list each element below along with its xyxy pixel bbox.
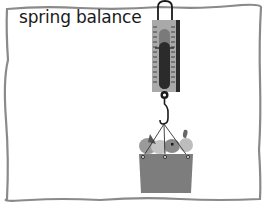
diagram-title: spring balance [19,9,141,26]
diagram-canvas [0,0,267,205]
scale-indicator [159,42,170,89]
frame-border [5,5,261,201]
basket [139,154,193,193]
scale-ring-hole [163,93,166,96]
